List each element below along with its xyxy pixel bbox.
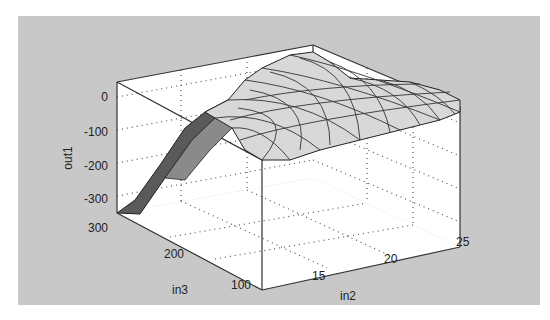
- x-axis-label: in2: [340, 289, 356, 303]
- z-tick-minus-200: -200: [84, 159, 108, 173]
- x-tick-20: 20: [384, 252, 398, 266]
- z-tick-minus-300: -300: [84, 192, 108, 206]
- y-axis-label: in3: [172, 283, 188, 297]
- surface-plot: 0 -100 -200 -300 300 200 100 15 20 25 ou…: [0, 0, 550, 320]
- y-tick-300: 300: [88, 221, 108, 235]
- y-tick-100: 100: [231, 278, 251, 292]
- z-tick-0: 0: [101, 90, 108, 104]
- z-axis-label: out1: [61, 146, 75, 170]
- x-tick-25: 25: [456, 235, 470, 249]
- y-tick-200: 200: [164, 247, 184, 261]
- x-tick-15: 15: [312, 269, 326, 283]
- z-tick-minus-100: -100: [84, 125, 108, 139]
